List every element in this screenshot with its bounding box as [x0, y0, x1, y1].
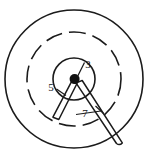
technical-diagram: 3 5 7	[0, 0, 154, 162]
label-7: 7	[82, 107, 88, 119]
leader-line-3	[78, 63, 85, 77]
label-3: 3	[85, 58, 91, 70]
label-5: 5	[48, 81, 54, 93]
concentric-circles-diagram: 3 5 7	[0, 0, 154, 162]
